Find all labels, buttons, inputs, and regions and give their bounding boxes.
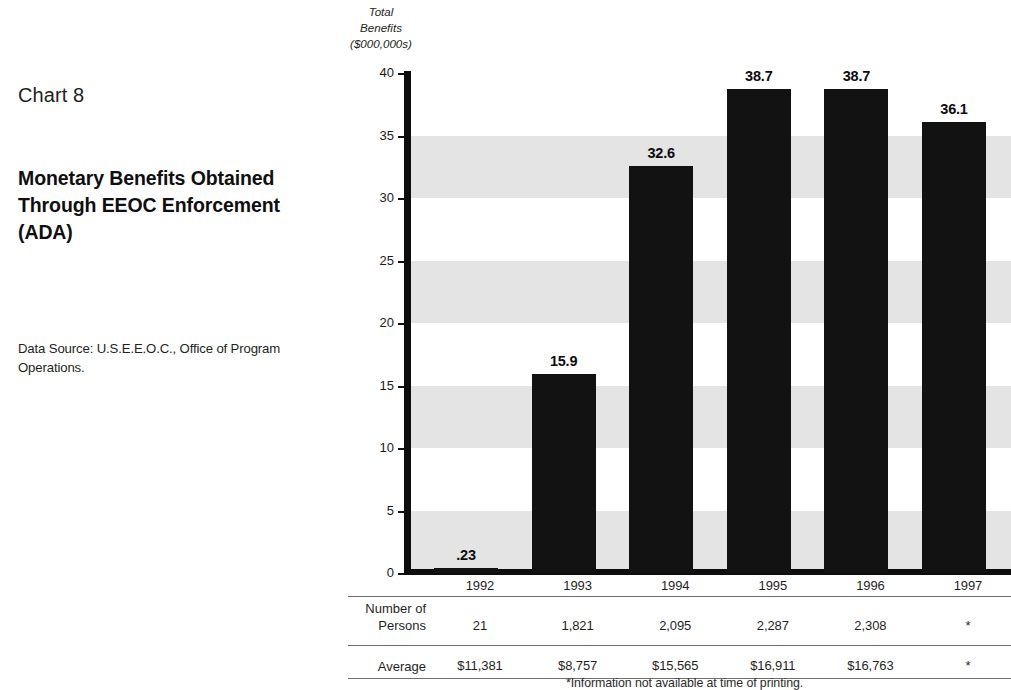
bar-value-label: 36.1 bbox=[910, 101, 998, 117]
table-column-header: 1993 bbox=[529, 578, 627, 593]
table-cell: 1,821 bbox=[529, 618, 627, 633]
y-axis-title: Total Benefits ($000,000s) bbox=[340, 4, 422, 51]
table-cell: 2,287 bbox=[724, 618, 822, 633]
y-axis-tick-mark bbox=[398, 136, 404, 138]
y-axis-tick-mark bbox=[398, 386, 404, 388]
bar bbox=[824, 89, 888, 573]
background-band bbox=[411, 261, 1011, 324]
table-cell: * bbox=[919, 618, 1011, 633]
bar-value-label: 32.6 bbox=[617, 145, 705, 161]
bar-value-label: 38.7 bbox=[715, 68, 803, 84]
bar-value-label: .23 bbox=[422, 547, 510, 563]
background-band bbox=[411, 511, 1011, 574]
table-row-label-line: Persons bbox=[348, 618, 426, 635]
table-cell: $16,911 bbox=[724, 658, 822, 673]
y-axis-tick-label: 25 bbox=[358, 253, 394, 268]
table-column-header: 1997 bbox=[919, 578, 1011, 593]
y-axis-tick-label: 15 bbox=[358, 378, 394, 393]
y-axis-tick-label: 10 bbox=[358, 440, 394, 455]
table-rule bbox=[348, 596, 1011, 597]
background-band bbox=[411, 386, 1011, 449]
table-column-header: 1992 bbox=[431, 578, 529, 593]
bar bbox=[629, 166, 693, 574]
table-cell: 21 bbox=[431, 618, 529, 633]
y-axis-line bbox=[404, 71, 411, 575]
y-axis-tick-label: 35 bbox=[358, 128, 394, 143]
table-row-label-line: Number of bbox=[348, 601, 426, 618]
y-axis-tick-mark bbox=[398, 261, 404, 263]
table-cell: $15,565 bbox=[626, 658, 724, 673]
y-axis-tick-mark bbox=[398, 573, 404, 575]
bar bbox=[727, 89, 791, 573]
y-axis-title-line-3: ($000,000s) bbox=[340, 36, 422, 52]
bar bbox=[532, 374, 596, 573]
y-axis-tick-mark bbox=[398, 73, 404, 75]
table-rule bbox=[348, 645, 1011, 646]
y-axis-title-line-2: Benefits bbox=[340, 20, 422, 36]
table-cell: $16,763 bbox=[821, 658, 919, 673]
y-axis-tick-mark bbox=[398, 198, 404, 200]
plot-area bbox=[411, 73, 1011, 573]
bar bbox=[434, 568, 498, 573]
bar-value-label: 15.9 bbox=[520, 353, 608, 369]
data-table: 199219931994199519961997Number ofPersons… bbox=[348, 576, 1011, 690]
table-row-label: Number ofPersons bbox=[348, 601, 426, 634]
y-axis-tick-label: 40 bbox=[358, 65, 394, 80]
table-cell: 2,095 bbox=[626, 618, 724, 633]
y-axis-tick-mark bbox=[398, 323, 404, 325]
table-column-header: 1995 bbox=[724, 578, 822, 593]
table-cell: * bbox=[919, 658, 1011, 673]
table-column-header: 1996 bbox=[821, 578, 919, 593]
y-axis-tick-label: 20 bbox=[358, 315, 394, 330]
y-axis-tick-mark bbox=[398, 511, 404, 513]
y-axis-tick-mark bbox=[398, 448, 404, 450]
y-axis-tick-label: 5 bbox=[358, 503, 394, 518]
y-axis-tick-label: 30 bbox=[358, 190, 394, 205]
table-column-header: 1994 bbox=[626, 578, 724, 593]
bar bbox=[922, 122, 986, 573]
y-axis-title-line-1: Total bbox=[340, 4, 422, 20]
table-cell: 2,308 bbox=[821, 618, 919, 633]
table-cell: $11,381 bbox=[431, 658, 529, 673]
bar-value-label: 38.7 bbox=[812, 68, 900, 84]
table-row-label: Average bbox=[348, 659, 426, 676]
table-cell: $8,757 bbox=[529, 658, 627, 673]
footnote: *Information not available at time of pr… bbox=[566, 676, 986, 690]
background-band bbox=[411, 136, 1011, 199]
